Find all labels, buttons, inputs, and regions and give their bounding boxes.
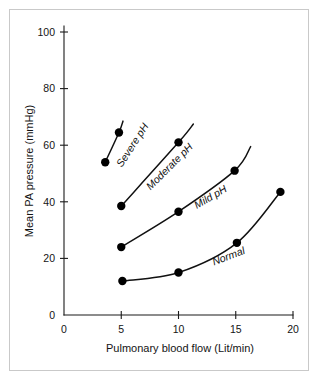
y-tick-label: 0	[49, 309, 55, 321]
x-tick-label: 20	[287, 323, 299, 335]
y-axis-ticks: 020406080100	[37, 26, 68, 321]
x-tick-label: 15	[230, 323, 242, 335]
y-tick-label: 60	[43, 139, 55, 151]
x-axis-title: Pulmonary blood flow (Lit/min)	[106, 342, 254, 354]
y-axis-title: Mean PA pressure (mmHg)	[23, 105, 35, 237]
data-point-marker	[115, 128, 123, 136]
chart-plot: 020406080100 05101520 Severe pHModerate …	[0, 0, 319, 381]
data-point-marker	[230, 166, 238, 174]
data-point-marker	[174, 208, 182, 216]
figure-container: 020406080100 05101520 Severe pHModerate …	[0, 0, 319, 381]
series-label-severe-ph: Severe pH	[113, 120, 150, 168]
data-point-marker	[101, 158, 109, 166]
data-point-marker	[276, 188, 284, 196]
x-tick-label: 10	[173, 323, 185, 335]
x-tick-label: 5	[118, 323, 124, 335]
y-tick-label: 80	[43, 82, 55, 94]
y-tick-label: 100	[37, 26, 55, 38]
data-point-marker	[117, 243, 125, 251]
x-tick-label: 0	[61, 323, 67, 335]
series-label-normal: Normal	[210, 244, 247, 268]
y-tick-label: 20	[43, 252, 55, 264]
series-label-moderate-ph: Moderate pH	[143, 140, 195, 192]
y-tick-label: 40	[43, 196, 55, 208]
series-line-mild-ph	[121, 147, 250, 247]
data-point-marker	[118, 277, 126, 285]
data-point-marker	[174, 268, 182, 276]
series-label-mild-ph: Mild pH	[192, 182, 229, 210]
data-point-marker	[117, 202, 125, 210]
